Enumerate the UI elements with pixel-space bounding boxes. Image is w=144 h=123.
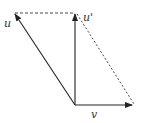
label-u: u bbox=[4, 17, 11, 30]
label-v: v bbox=[91, 108, 98, 121]
vector-diagram: u u' v bbox=[0, 0, 144, 123]
vector-u-arrow bbox=[15, 14, 75, 105]
dashed-diagonal-line bbox=[77, 14, 134, 104]
label-u-prime: u' bbox=[83, 11, 93, 24]
